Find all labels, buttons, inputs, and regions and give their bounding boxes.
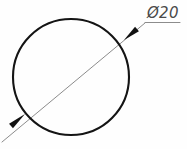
drawing-surface: Ø20 (0, 0, 187, 149)
technical-drawing-canvas: Ø20 (0, 0, 187, 149)
diameter-dimension-label: Ø20 (146, 4, 179, 22)
